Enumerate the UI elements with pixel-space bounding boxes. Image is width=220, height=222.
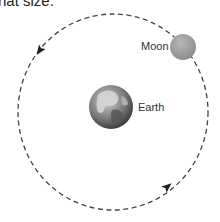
earth-label: Earth [138,101,164,113]
earth-icon [89,85,133,129]
moon-icon [170,34,196,60]
orbit-arrow-icon [161,180,174,193]
moon-label: Moon [141,40,169,52]
orbit-arrow-icon [33,44,45,57]
orbit-diagram [0,0,220,222]
